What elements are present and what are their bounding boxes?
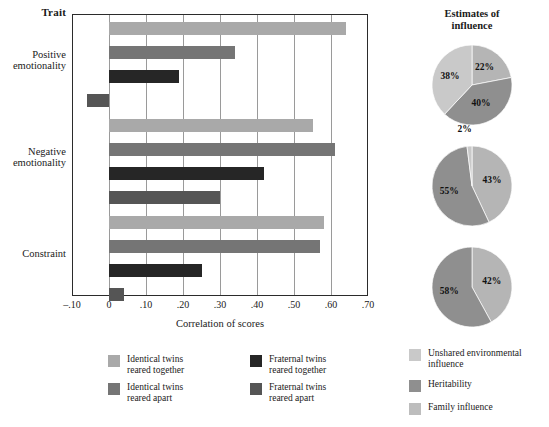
x-tick-label: .50	[288, 299, 301, 310]
legend-swatch	[108, 355, 120, 367]
pie-slice-label: 42%	[482, 276, 501, 286]
x-tick-label: .40	[251, 299, 264, 310]
category-label: Constraint	[0, 248, 66, 260]
bar	[109, 216, 324, 229]
pie-chart-panel: Estimates of influence 22%40%38%43%55%2%…	[395, 0, 549, 427]
pie-slice-label: 55%	[440, 186, 459, 196]
pie-svg	[429, 42, 515, 128]
legend-label: Identical twins reared apart	[127, 382, 183, 403]
category-label-line2: emotionality	[0, 60, 66, 72]
pie-slice-label: 43%	[482, 175, 501, 185]
pie-slice-label: 22%	[475, 62, 494, 72]
legend-label: Heritability	[428, 379, 472, 390]
legend-label: Unshared environmental influence	[428, 348, 549, 369]
category-label: Negativeemotionality	[0, 146, 66, 169]
legend-item: Family influence	[409, 402, 549, 415]
legend-label: Fraternal twins reared apart	[269, 382, 326, 403]
x-tick-label: .10	[140, 299, 153, 310]
bar	[109, 191, 220, 204]
pie-slice-label: 58%	[440, 286, 459, 296]
bar	[109, 240, 320, 253]
pie-panel-heading: Estimates of influence	[395, 8, 549, 32]
legend-swatch	[409, 349, 421, 361]
x-tick-label: 0	[107, 299, 112, 310]
legend-label: Identical twins reared together	[127, 354, 184, 375]
bar	[109, 22, 346, 35]
pie-slice-label: 2%	[457, 124, 471, 134]
legend-label: Fraternal twins reared together	[269, 354, 326, 375]
x-tick-label: .60	[325, 299, 338, 310]
pie-chart: 22%40%38%	[395, 42, 549, 128]
pie-slice-label: 40%	[472, 98, 491, 108]
bar	[109, 119, 313, 132]
legend-item: Fraternal twins reared apart	[250, 382, 326, 403]
legend-item: Unshared environmental influence	[409, 348, 549, 369]
bar	[109, 264, 202, 277]
category-label: Positiveemotionality	[0, 49, 66, 72]
legend-swatch	[409, 403, 421, 415]
legend-swatch	[108, 383, 120, 395]
pie-chart: 43%55%2%	[395, 143, 549, 229]
legend-swatch	[250, 355, 262, 367]
bar	[87, 94, 109, 107]
category-label-line1: Constraint	[0, 248, 66, 260]
legend-item: Identical twins reared apart	[108, 382, 183, 403]
x-tick-label: .30	[214, 299, 227, 310]
pie-heading-line1: Estimates of	[444, 8, 499, 19]
category-label-line1: Positive	[0, 49, 66, 61]
legend-item: Identical twins reared together	[108, 354, 184, 375]
legend-item: Fraternal twins reared together	[250, 354, 326, 375]
bar	[109, 143, 335, 156]
bar	[109, 46, 235, 59]
legend-item: Heritability	[409, 379, 549, 392]
category-label-line1: Negative	[0, 146, 66, 158]
pie-chart-legend: Unshared environmental influenceHeritabi…	[409, 348, 549, 425]
legend-label: Family influence	[428, 402, 493, 413]
bar-chart-panel: Trait PositiveemotionalityNegativeemotio…	[0, 0, 395, 427]
category-label-line2: emotionality	[0, 157, 66, 169]
bar	[109, 70, 179, 83]
pie-slice-label: 38%	[441, 71, 460, 81]
x-axis-title: Correlation of scores	[72, 318, 368, 329]
legend-swatch	[250, 383, 262, 395]
x-axis-tick-labels: –.100.10.20.30.40.50.60.70	[72, 299, 368, 315]
trait-heading: Trait	[0, 6, 66, 18]
pie-chart: 42%58%	[395, 244, 549, 330]
pie-heading-line2: influence	[452, 20, 493, 31]
x-tick-label: .70	[362, 299, 375, 310]
legend-swatch	[409, 380, 421, 392]
x-tick-label: –.10	[63, 299, 81, 310]
x-tick-label: .20	[177, 299, 190, 310]
bar	[109, 167, 264, 180]
